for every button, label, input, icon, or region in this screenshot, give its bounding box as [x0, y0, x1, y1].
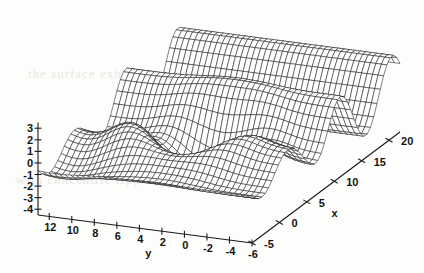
z-tick-label-1: 2: [27, 134, 33, 146]
x-axis-title: x: [331, 207, 338, 219]
surface-plot-figure: the surface exhibits a central depressio…: [0, 0, 424, 273]
z-tick-label-5: -2: [23, 180, 33, 192]
x-tick-label-0: -5: [264, 238, 274, 250]
y-tick-label-0: 12: [44, 221, 56, 233]
y-tick-label-8: -4: [226, 245, 237, 257]
x-tick-label-1: 0: [291, 217, 297, 229]
z-tick-label-6: -3: [23, 192, 33, 204]
surface-plot-canvas: 121086420-2-4-6y-505101520x3210-1-2-3-4: [0, 0, 424, 273]
y-tick-label-3: 6: [115, 230, 121, 242]
z-tick-label-0: 3: [27, 122, 33, 134]
z-tick-label-2: 1: [27, 145, 33, 157]
x-tick-label-2: 5: [319, 197, 325, 209]
x-tick-label-4: 15: [374, 156, 386, 168]
y-tick-label-6: 0: [182, 239, 188, 251]
y-tick-label-2: 8: [92, 227, 98, 239]
x-tick-label-3: 10: [346, 176, 358, 188]
y-tick-label-9: -6: [248, 248, 258, 260]
y-tick-label-4: 4: [137, 233, 144, 245]
z-tick-label-3: 0: [27, 157, 33, 169]
z-tick-label-7: -4: [23, 203, 34, 215]
z-tick-label-4: -1: [23, 169, 33, 181]
y-tick-label-5: 2: [160, 236, 166, 248]
x-tick-label-5: 20: [401, 135, 413, 147]
y-tick-label-1: 10: [67, 224, 79, 236]
y-axis-title: y: [145, 247, 152, 259]
y-tick-label-7: -2: [203, 242, 213, 254]
